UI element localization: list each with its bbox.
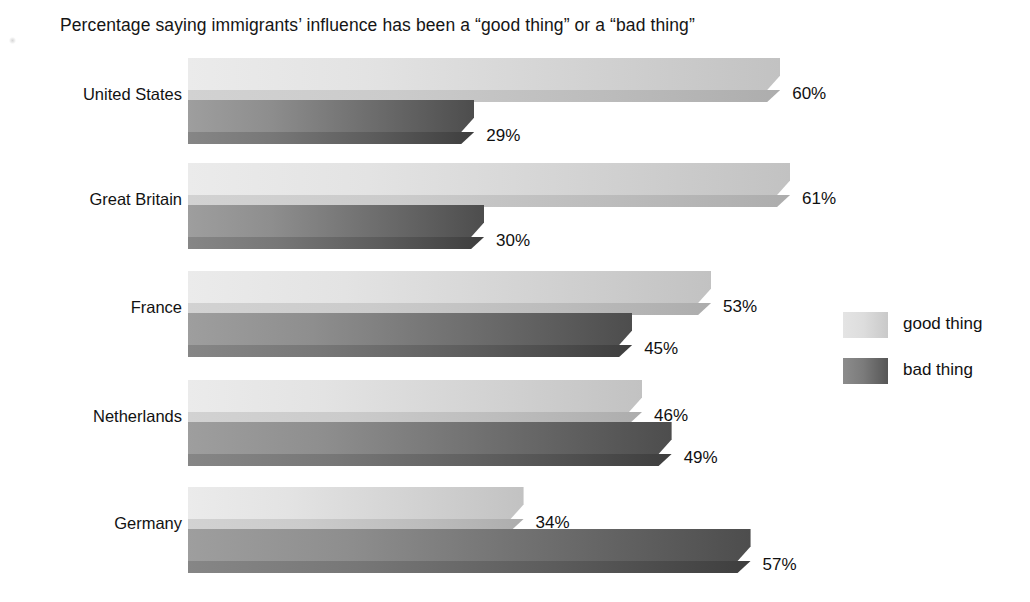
bar-face [188, 422, 672, 454]
bar-bad-france [188, 313, 632, 345]
bar-group: Germany34%57% [0, 487, 1030, 585]
category-label-netherlands: Netherlands [0, 407, 182, 426]
bar-group: Netherlands46%49% [0, 380, 1030, 478]
bar-face [188, 380, 642, 412]
bar-bad-united-states [188, 100, 474, 132]
bar-good-france [188, 271, 711, 303]
value-label-good-great-britain: 61% [802, 189, 836, 209]
bar-face [188, 529, 751, 561]
bar-bad-germany [188, 529, 751, 561]
bar-good-united-states [188, 58, 780, 90]
bar-group: Great Britain61%30% [0, 163, 1030, 261]
bar-bad-great-britain [188, 205, 484, 237]
category-label-united-states: United States [0, 85, 182, 104]
bar-shadow-edge [188, 132, 474, 144]
legend-label: good thing [903, 314, 982, 334]
legend-label: bad thing [903, 360, 973, 380]
category-label-france: France [0, 298, 182, 317]
bar-good-great-britain [188, 163, 790, 195]
value-label-good-united-states: 60% [792, 84, 826, 104]
bar-group: United States60%29% [0, 58, 1030, 156]
value-label-bad-netherlands: 49% [684, 448, 718, 468]
plot-area: United States60%29%Great Britain61%30%Fr… [0, 0, 1030, 602]
value-label-bad-france: 45% [644, 339, 678, 359]
value-label-bad-great-britain: 30% [496, 231, 530, 251]
bar-face [188, 271, 711, 303]
chart-root: Percentage saying immigrants’ influence … [0, 0, 1030, 602]
bar-face [188, 58, 780, 90]
bar-shadow-edge [188, 237, 484, 249]
legend-swatch-good-icon [843, 312, 888, 338]
bar-face [188, 487, 524, 519]
value-label-bad-germany: 57% [763, 555, 797, 575]
bar-shadow-edge [188, 561, 751, 573]
bar-bad-netherlands [188, 422, 672, 454]
bar-good-germany [188, 487, 524, 519]
legend-swatch-bad-icon [843, 358, 888, 384]
category-label-great-britain: Great Britain [0, 190, 182, 209]
bar-face [188, 205, 484, 237]
bar-shadow-edge [188, 345, 632, 357]
value-label-good-france: 53% [723, 297, 757, 317]
bar-face [188, 313, 632, 345]
value-label-bad-united-states: 29% [486, 126, 520, 146]
bar-face [188, 100, 474, 132]
bar-face [188, 163, 790, 195]
bar-good-netherlands [188, 380, 642, 412]
category-label-germany: Germany [0, 514, 182, 533]
bar-shadow-edge [188, 454, 672, 466]
